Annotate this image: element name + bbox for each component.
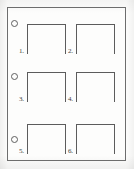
punch-hole-icon (11, 73, 18, 80)
bracket-number-label: 2. (68, 48, 73, 55)
bracket-number-label: 6. (68, 148, 73, 155)
bracket-number-label: 3. (19, 96, 24, 103)
punch-hole-icon (11, 136, 18, 143)
bracket-number-label: 4. (68, 96, 73, 103)
answer-bracket-shape[interactable] (76, 72, 115, 102)
bracket-number-label: 1. (19, 48, 24, 55)
punch-hole-icon (11, 20, 18, 27)
answer-bracket-shape[interactable] (27, 24, 66, 54)
answer-bracket-shape[interactable] (76, 124, 115, 154)
answer-bracket-shape[interactable] (27, 72, 66, 102)
scanned-page: 1.2.3.4.5.6. (0, 0, 134, 169)
answer-bracket-shape[interactable] (76, 24, 115, 54)
answer-bracket-shape[interactable] (27, 124, 66, 154)
bracket-number-label: 5. (19, 148, 24, 155)
